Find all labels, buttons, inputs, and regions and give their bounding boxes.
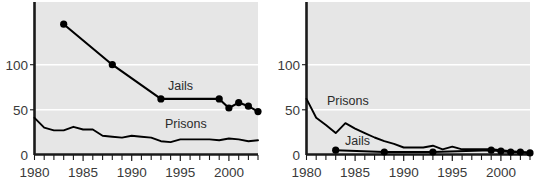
right-chart-svg: 100 50 0 1980 1985 1990 1995 2000 — [272, 0, 544, 192]
right-ytick-label-50: 50 — [285, 103, 300, 118]
right-xtick-label-1990: 1990 — [389, 165, 419, 180]
two-panel-line-chart-figure: 100 50 0 1980 1985 1990 1995 2000 — [0, 0, 544, 192]
right-ytick-label-100: 100 — [277, 58, 300, 73]
left-ytick-label-100: 100 — [5, 58, 28, 73]
right-xtick-label-1995: 1995 — [437, 165, 467, 180]
right-xtick-label-1980: 1980 — [291, 165, 321, 180]
left-series-label-prisons: Prisons — [165, 117, 207, 131]
right-plot-background — [306, 2, 530, 155]
left-series-label-jails: Jails — [168, 79, 193, 93]
left-xtick-label-1980: 1980 — [19, 165, 49, 180]
left-xtick-label-2000: 2000 — [214, 165, 244, 180]
left-chart-svg: 100 50 0 1980 1985 1990 1995 2000 — [0, 0, 272, 192]
left-xtick-label-1995: 1995 — [165, 165, 195, 180]
right-x-ticks — [307, 155, 531, 161]
left-xtick-label-1985: 1985 — [68, 165, 98, 180]
right-chart-panel: 100 50 0 1980 1985 1990 1995 2000 — [272, 0, 544, 192]
left-chart-panel: 100 50 0 1980 1985 1990 1995 2000 — [0, 0, 272, 192]
right-xtick-label-2000: 2000 — [486, 165, 516, 180]
right-series-label-prisons: Prisons — [327, 94, 369, 108]
left-ytick-label-0: 0 — [20, 148, 28, 163]
left-ytick-label-50: 50 — [13, 103, 28, 118]
left-x-ticks — [35, 155, 259, 161]
left-plot-background — [34, 2, 258, 155]
right-series-label-jails: Jails — [345, 134, 370, 148]
right-ytick-label-0: 0 — [292, 148, 300, 163]
right-xtick-label-1985: 1985 — [340, 165, 370, 180]
left-xtick-label-1990: 1990 — [117, 165, 147, 180]
